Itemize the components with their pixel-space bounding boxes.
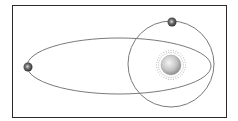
star-icon [161, 55, 181, 75]
planet-elliptical-icon [24, 63, 33, 72]
elliptical-orbit [27, 38, 211, 94]
orbit-diagram [0, 0, 238, 121]
planet-circular-icon [168, 18, 177, 27]
